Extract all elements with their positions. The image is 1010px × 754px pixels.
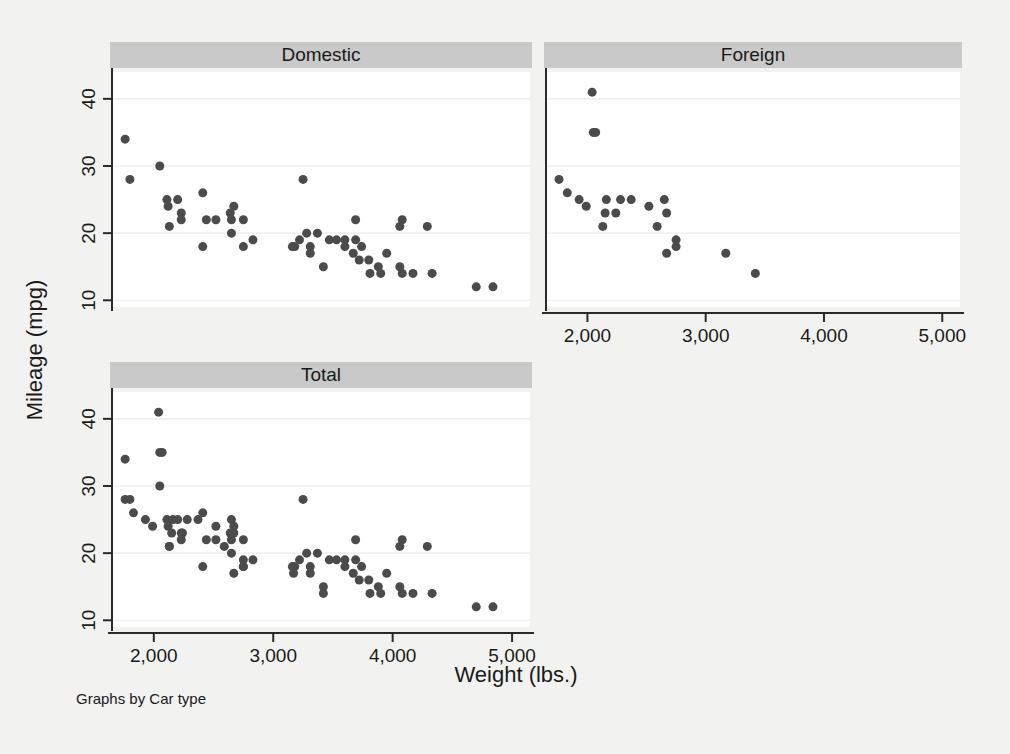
data-point: [202, 535, 211, 544]
data-point: [376, 589, 385, 598]
data-point: [660, 195, 669, 204]
data-point: [555, 175, 564, 184]
panel-title-label: Total: [301, 364, 341, 385]
data-point: [302, 549, 311, 558]
data-point: [751, 269, 760, 278]
data-point: [154, 408, 163, 417]
data-point: [288, 242, 297, 251]
data-point: [588, 88, 597, 97]
data-point: [340, 235, 349, 244]
data-point: [229, 529, 238, 538]
data-point: [721, 249, 730, 258]
y-tick-label: 10: [78, 610, 99, 631]
data-point: [351, 555, 360, 564]
data-point: [357, 562, 366, 571]
data-point: [589, 128, 598, 137]
data-point: [239, 215, 248, 224]
data-point: [211, 215, 220, 224]
data-point: [319, 262, 328, 271]
data-point: [193, 515, 202, 524]
data-point: [382, 569, 391, 578]
data-point: [611, 209, 620, 218]
data-point: [198, 188, 207, 197]
data-point: [198, 562, 207, 571]
data-point: [364, 256, 373, 265]
data-point: [313, 229, 322, 238]
data-point: [672, 235, 681, 244]
x-tick-label: 4,000: [369, 645, 417, 666]
data-point: [662, 249, 671, 258]
data-point: [364, 576, 373, 585]
data-point: [306, 562, 315, 571]
y-tick-label: 40: [78, 88, 99, 109]
panel-title-label: Foreign: [721, 44, 785, 65]
data-point: [349, 569, 358, 578]
y-tick-label: 40: [78, 408, 99, 429]
data-point: [365, 269, 374, 278]
x-tick-label: 4,000: [800, 325, 848, 346]
data-point: [178, 529, 187, 538]
data-point: [563, 188, 572, 197]
data-point: [227, 515, 236, 524]
data-point: [168, 515, 177, 524]
data-point: [408, 269, 417, 278]
stata-scatter-graph: Domestic10203040Foreign2,0003,0004,0005,…: [0, 0, 1010, 754]
data-point: [395, 542, 404, 551]
panel-total: Total102030402,0003,0004,0005,000: [78, 362, 536, 666]
data-point: [351, 535, 360, 544]
data-point: [173, 195, 182, 204]
data-point: [125, 175, 134, 184]
data-point: [289, 569, 298, 578]
data-point: [398, 269, 407, 278]
y-tick-label: 20: [78, 223, 99, 244]
data-point: [211, 522, 220, 531]
data-point: [148, 522, 157, 531]
data-point: [662, 209, 671, 218]
data-point: [239, 535, 248, 544]
data-point: [653, 222, 662, 231]
data-point: [121, 455, 130, 464]
x-axis-title: Weight (lbs.): [454, 662, 577, 687]
data-point: [220, 542, 229, 551]
data-point: [340, 555, 349, 564]
data-point: [299, 175, 308, 184]
data-point: [488, 282, 497, 291]
x-tick-label: 2,000: [130, 645, 178, 666]
data-point: [239, 242, 248, 251]
data-point: [357, 242, 366, 251]
data-point: [227, 229, 236, 238]
data-point: [198, 242, 207, 251]
data-point: [349, 249, 358, 258]
data-point: [164, 202, 173, 211]
data-point: [313, 549, 322, 558]
graph-note: Graphs by Car type: [76, 690, 206, 707]
panel-domestic: Domestic10203040: [78, 42, 532, 311]
data-point: [376, 269, 385, 278]
data-point: [141, 515, 150, 524]
data-point: [423, 222, 432, 231]
panel-title-label: Domestic: [281, 44, 360, 65]
x-tick-label: 5,000: [918, 325, 966, 346]
data-point: [428, 589, 437, 598]
figure-canvas: Domestic10203040Foreign2,0003,0004,0005,…: [0, 0, 1010, 754]
data-point: [365, 589, 374, 598]
data-point: [239, 555, 248, 564]
data-point: [306, 242, 315, 251]
data-point: [165, 542, 174, 551]
data-point: [319, 589, 328, 598]
data-point: [183, 515, 192, 524]
data-point: [248, 235, 257, 244]
data-point: [395, 222, 404, 231]
data-point: [575, 195, 584, 204]
data-point: [332, 555, 341, 564]
data-point: [295, 235, 304, 244]
data-point: [602, 195, 611, 204]
y-axis-title: Mileage (mpg): [22, 280, 47, 421]
data-point: [398, 589, 407, 598]
y-tick-label: 30: [78, 475, 99, 496]
y-tick-label: 10: [78, 290, 99, 311]
data-point: [229, 569, 238, 578]
data-point: [601, 209, 610, 218]
data-point: [155, 162, 164, 171]
data-point: [355, 256, 364, 265]
